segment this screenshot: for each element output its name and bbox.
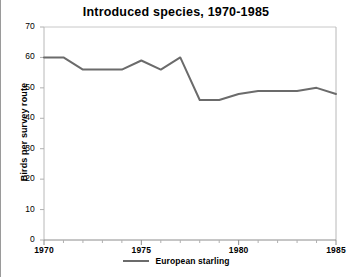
plot-area — [1, 0, 350, 277]
data-line-european-starling — [44, 57, 336, 100]
chart-legend: European starling — [1, 256, 350, 266]
legend-label: European starling — [156, 256, 230, 266]
x-axis-tick-label: 1980 — [219, 245, 259, 255]
y-axis-tick-label: 40 — [9, 112, 35, 122]
y-axis-tick-label: 70 — [9, 21, 35, 31]
y-axis-tick-label: 10 — [9, 204, 35, 214]
y-axis-tick-label: 50 — [9, 82, 35, 92]
y-axis-ticks — [40, 27, 44, 240]
x-axis-tick-label: 1975 — [121, 245, 161, 255]
y-axis-tick-label: 20 — [9, 173, 35, 183]
x-axis-tick-label: 1970 — [24, 245, 64, 255]
legend-line-european-starling — [123, 260, 149, 262]
x-axis-tick-label: 1985 — [316, 245, 350, 255]
y-axis-tick-label: 0 — [9, 234, 35, 244]
plot-frame — [44, 27, 336, 240]
y-axis-tick-label: 60 — [9, 51, 35, 61]
data-series-group — [44, 57, 336, 100]
x-axis-ticks — [44, 240, 336, 245]
y-axis-tick-label: 30 — [9, 143, 35, 153]
chart-figure: Introduced species, 1970-1985 Birds per … — [0, 0, 350, 277]
